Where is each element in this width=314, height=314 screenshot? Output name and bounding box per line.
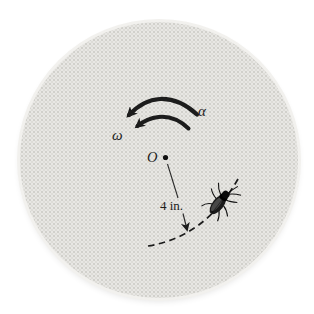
omega-label: ω bbox=[112, 128, 123, 143]
diagram-canvas: α ω O 4 in. bbox=[0, 0, 314, 314]
bug-icon bbox=[198, 174, 246, 224]
center-label: O bbox=[147, 150, 157, 165]
center-dot bbox=[163, 155, 168, 160]
alpha-arrow bbox=[129, 99, 197, 115]
radius-line-upper bbox=[168, 164, 179, 198]
omega-arrow bbox=[138, 117, 189, 129]
radius-line-lower bbox=[183, 214, 187, 230]
radius-dimension-label: 4 in. bbox=[160, 199, 183, 212]
alpha-label: α bbox=[198, 104, 206, 119]
